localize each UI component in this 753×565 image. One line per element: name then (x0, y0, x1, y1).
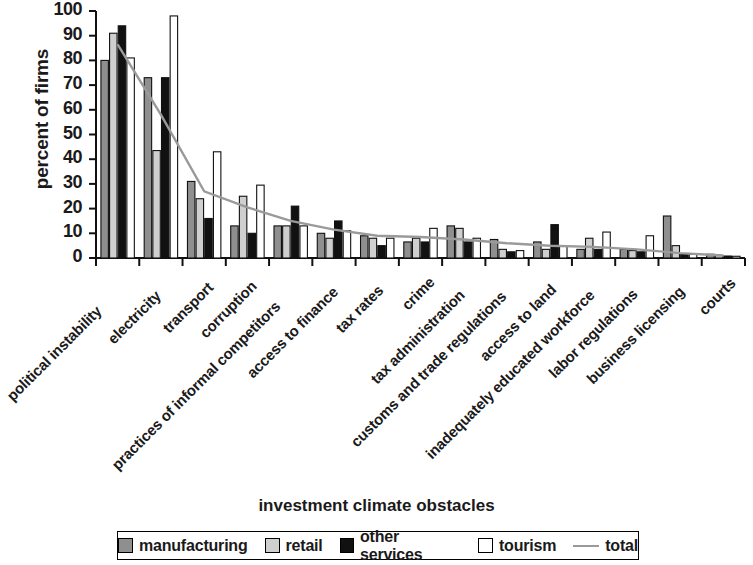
bar (153, 151, 160, 258)
bar (101, 60, 108, 258)
bar (118, 26, 125, 258)
y-tick-label: 100 (38, 0, 82, 20)
legend-item: total (573, 537, 638, 555)
bar (361, 236, 368, 258)
x-axis-title: investment climate obstacles (0, 496, 753, 516)
legend-swatch (265, 538, 280, 553)
legend-swatch (118, 538, 133, 553)
bar (620, 249, 627, 258)
chart-legend: manufacturingretailother servicestourism… (117, 531, 639, 560)
bar (196, 199, 203, 258)
bar (317, 233, 324, 258)
legend-swatch (478, 538, 493, 553)
bar (283, 226, 290, 258)
y-tick-label: 70 (38, 73, 82, 94)
bar (326, 238, 333, 258)
legend-label: manufacturing (139, 537, 248, 555)
legend-label: total (605, 537, 638, 555)
bar (447, 226, 454, 258)
y-tick-label: 60 (38, 98, 82, 119)
bar (508, 252, 515, 258)
y-tick-label: 80 (38, 48, 82, 69)
legend-label: retail (286, 537, 323, 555)
legend-item: manufacturing (118, 537, 248, 555)
bar (499, 249, 506, 258)
bar (205, 218, 212, 258)
bar (586, 238, 593, 258)
bar (404, 242, 411, 258)
bar (681, 254, 688, 258)
bar (213, 152, 220, 258)
legend-label: other services (360, 528, 461, 564)
bar (603, 232, 610, 258)
bar (231, 226, 238, 258)
bar (343, 231, 350, 258)
bar (560, 246, 567, 258)
y-tick-label: 10 (38, 221, 82, 242)
legend-label: tourism (499, 537, 556, 555)
bar (369, 238, 376, 258)
bar (162, 78, 169, 258)
bar (291, 206, 298, 258)
bar (577, 249, 584, 258)
bar (629, 251, 636, 258)
y-tick-label: 40 (38, 147, 82, 168)
bar (464, 242, 471, 258)
bar (257, 185, 264, 258)
legend-item: other services (340, 528, 461, 564)
bar (456, 228, 463, 258)
bar (386, 238, 393, 258)
bar (412, 238, 419, 258)
legend-swatch (340, 538, 354, 553)
bar (724, 256, 731, 258)
bar (637, 252, 644, 258)
bar (248, 233, 255, 258)
bar (144, 78, 151, 258)
bar (421, 242, 428, 258)
bar (274, 226, 281, 258)
legend-line-marker (573, 545, 599, 547)
bar (551, 225, 558, 258)
bar (127, 58, 134, 258)
bar (187, 181, 194, 258)
bar (594, 249, 601, 258)
bar (646, 236, 653, 258)
bar (516, 251, 523, 258)
bar (430, 228, 437, 258)
y-tick-label: 30 (38, 172, 82, 193)
bar (542, 249, 549, 258)
bar (335, 221, 342, 258)
y-tick-label: 50 (38, 123, 82, 144)
bar (378, 246, 385, 258)
legend-item: retail (265, 537, 323, 555)
bar (300, 226, 307, 258)
chart-figure: percent of firms 0102030405060708090100 … (0, 0, 753, 565)
y-tick-label: 0 (38, 246, 82, 267)
y-tick-label: 90 (38, 24, 82, 45)
bar (733, 256, 740, 258)
bar (110, 33, 117, 258)
y-tick-label: 20 (38, 197, 82, 218)
legend-item: tourism (478, 537, 556, 555)
